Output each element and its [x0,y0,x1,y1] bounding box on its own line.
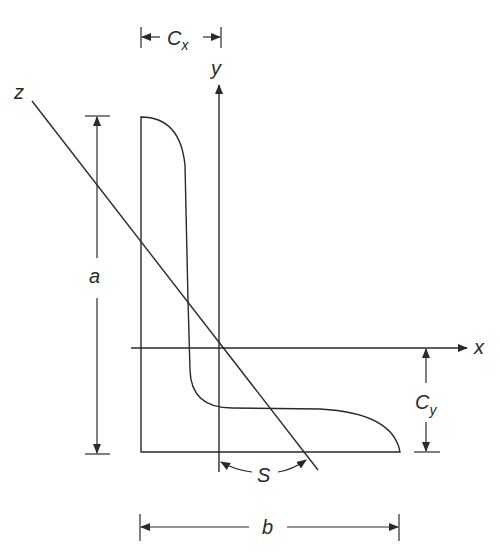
x-axis: x [131,336,485,358]
z-axis: z [13,81,318,470]
x-axis-label: x [473,336,485,358]
a-dimension: a [85,116,110,454]
cx-label: Cx [167,27,189,53]
cx-dimension: Cx [141,27,221,53]
a-label: a [89,265,100,287]
z-axis-label: z [13,81,24,103]
s-angle-dimension: S [221,460,306,486]
y-axis-label: y [209,57,222,79]
y-axis: y [209,57,222,472]
b-label: b [262,516,273,538]
angle-section-outline [141,117,400,452]
cy-dimension: Cy [414,349,440,452]
angle-section-diagram: Cx y x z a Cy S [0,0,501,556]
b-dimension: b [140,514,399,541]
cy-label: Cy [415,391,437,418]
s-label: S [257,464,271,486]
